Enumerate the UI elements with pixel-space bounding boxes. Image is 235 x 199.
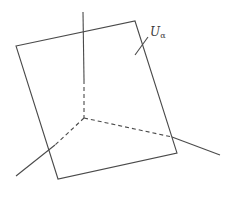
plane-label-main: U — [150, 25, 160, 39]
left-axis-hidden — [55, 118, 84, 145]
plane-quadrilateral — [16, 21, 177, 179]
plane-label-subscript: α — [160, 31, 165, 40]
left-axis-solid — [16, 145, 55, 176]
right-axis-solid — [172, 137, 220, 155]
diagram-canvas — [0, 0, 235, 199]
right-axis-hidden — [84, 118, 172, 137]
plane-label: Uα — [150, 26, 166, 40]
vertical-axis-solid — [83, 12, 84, 80]
